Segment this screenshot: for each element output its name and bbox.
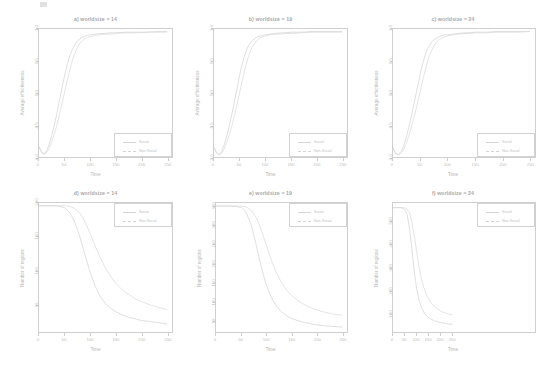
x-tick-label-b-2: 100 xyxy=(260,162,270,167)
x-tick-c-5 xyxy=(530,158,531,161)
x-tick-label-e-5: 250 xyxy=(338,337,348,342)
x-tick-label-c-1: 50 xyxy=(415,162,425,167)
x-tick-f-1 xyxy=(404,333,405,336)
y-tick-label-b-1: -0.5 xyxy=(209,120,214,132)
legend-label: Non-Social xyxy=(502,149,520,153)
x-tick-label-f-2: 100 xyxy=(411,337,421,342)
y-tick-label-a-3: 0.5 xyxy=(34,55,39,67)
y-tick-label-a-1: -0.5 xyxy=(34,120,39,132)
y-tick-label-c-4: 1.0 xyxy=(388,22,393,34)
legend-line-icon-solid xyxy=(123,142,136,143)
x-tick-f-0 xyxy=(392,333,393,336)
x-tick-label-e-4: 200 xyxy=(312,337,322,342)
x-tick-b-1 xyxy=(239,158,240,161)
y-tick-label-e-2: 150 xyxy=(211,277,216,289)
legend-label: Social xyxy=(314,140,324,144)
x-tick-e-3 xyxy=(292,333,293,336)
x-tick-label-b-5: 250 xyxy=(338,162,348,167)
x-axis-title-e: Time xyxy=(183,347,358,352)
y-tick-label-a-2: 0.0 xyxy=(34,87,39,99)
x-tick-c-3 xyxy=(475,158,476,161)
x-tick-d-0 xyxy=(38,333,39,336)
x-tick-c-1 xyxy=(420,158,421,161)
x-tick-label-a-1: 50 xyxy=(59,162,69,167)
y-axis-title-b: Average effectiveness xyxy=(195,67,200,119)
x-tick-b-5 xyxy=(343,158,344,161)
x-tick-e-5 xyxy=(343,333,344,336)
y-tick-label-e-4: 250 xyxy=(211,238,216,250)
x-tick-c-2 xyxy=(447,158,448,161)
y-tick-label-c-0: -1.0 xyxy=(388,152,393,164)
legend-entry-b-1: Non-Social xyxy=(298,149,332,153)
panel-title-e: e) worldsize = 19 xyxy=(183,190,358,196)
x-tick-label-d-4: 200 xyxy=(137,337,147,342)
y-tick-label-e-3: 200 xyxy=(211,258,216,270)
legend-line-icon-dashed xyxy=(298,221,311,222)
legend-d: SocialNon-Social xyxy=(114,203,172,227)
x-tick-label-f-5: 250 xyxy=(447,337,457,342)
panel-f: f) worldsize = 2405010015020025010020030… xyxy=(358,190,548,365)
y-tick-label-f-0: 100 xyxy=(388,308,393,320)
y-tick-label-b-2: 0.0 xyxy=(209,87,214,99)
x-tick-label-e-0: 0 xyxy=(210,337,220,342)
panel-d: d) worldsize = 1405010015020025050100150… xyxy=(8,190,183,365)
x-axis-title-f: Time xyxy=(358,347,548,352)
y-tick-label-e-6: 350 xyxy=(211,200,216,212)
y-axis-title-a: Average effectiveness xyxy=(20,67,25,119)
legend-label: Non-Social xyxy=(502,219,520,223)
legend-entry-a-0: Social xyxy=(123,140,149,144)
y-tick-label-e-5: 300 xyxy=(211,219,216,231)
y-axis-title-f: Number of regions xyxy=(374,242,379,294)
legend-line-icon-dashed xyxy=(486,151,499,152)
x-tick-label-e-3: 150 xyxy=(287,337,297,342)
y-tick-label-b-4: 1.0 xyxy=(209,22,214,34)
y-axis-title-d: Number of regions xyxy=(20,242,25,294)
x-tick-label-f-3: 150 xyxy=(423,337,433,342)
y-tick-label-c-1: -0.5 xyxy=(388,120,393,132)
legend-label: Non-Social xyxy=(139,149,157,153)
x-tick-label-b-1: 50 xyxy=(234,162,244,167)
x-axis-title-a: Time xyxy=(8,172,183,177)
x-tick-label-d-1: 50 xyxy=(59,337,69,342)
panel-a: a) worldsize = 14050100150200250-1.0-0.5… xyxy=(8,16,183,188)
x-tick-b-3 xyxy=(291,158,292,161)
legend-label: Social xyxy=(314,210,324,214)
legend-label: Non-Social xyxy=(314,219,332,223)
x-tick-f-2 xyxy=(416,333,417,336)
x-tick-label-f-4: 200 xyxy=(435,337,445,342)
x-tick-d-1 xyxy=(64,333,65,336)
legend-e: SocialNon-Social xyxy=(289,203,347,227)
y-tick-label-d-2: 150 xyxy=(34,230,39,242)
x-tick-a-1 xyxy=(64,158,65,161)
legend-b: SocialNon-Social xyxy=(289,133,347,157)
panel-e: e) worldsize = 1905010015020025050100150… xyxy=(183,190,358,365)
panel-title-f: f) worldsize = 24 xyxy=(358,190,548,196)
legend-entry-e-0: Social xyxy=(298,210,324,214)
x-tick-f-3 xyxy=(428,333,429,336)
y-tick-label-c-3: 0.5 xyxy=(388,55,393,67)
x-tick-label-a-4: 200 xyxy=(137,162,147,167)
x-tick-label-e-1: 50 xyxy=(236,337,246,342)
legend-entry-c-1: Non-Social xyxy=(486,149,520,153)
x-tick-label-e-2: 100 xyxy=(261,337,271,342)
legend-entry-e-1: Non-Social xyxy=(298,219,332,223)
legend-label: Social xyxy=(139,210,149,214)
y-tick-label-b-3: 0.5 xyxy=(209,55,214,67)
legend-a: SocialNon-Social xyxy=(114,133,172,157)
legend-line-icon-solid xyxy=(298,142,311,143)
legend-line-icon-dashed xyxy=(298,151,311,152)
legend-line-icon-dashed xyxy=(123,151,136,152)
legend-line-icon-solid xyxy=(298,212,311,213)
x-tick-label-f-0: 0 xyxy=(387,337,397,342)
legend-entry-d-1: Non-Social xyxy=(123,219,157,223)
x-tick-d-4 xyxy=(142,333,143,336)
x-tick-label-a-5: 250 xyxy=(163,162,173,167)
x-tick-b-2 xyxy=(265,158,266,161)
x-tick-label-d-5: 250 xyxy=(163,337,173,342)
legend-label: Social xyxy=(502,210,512,214)
x-tick-label-b-4: 200 xyxy=(312,162,322,167)
y-tick-label-f-2: 300 xyxy=(388,262,393,274)
y-tick-label-d-0: 50 xyxy=(34,299,39,311)
y-tick-label-f-3: 400 xyxy=(388,238,393,250)
x-tick-c-4 xyxy=(503,158,504,161)
